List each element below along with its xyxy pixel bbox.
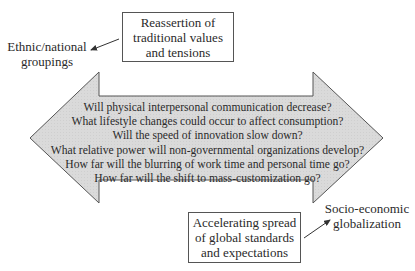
right-label-socio-economic-globalization: Socio-economic globalization	[322, 201, 412, 231]
bottom-box-line: and expectations	[189, 245, 300, 260]
bottom-box-accelerating-spread: Accelerating spread of global standards …	[188, 212, 301, 263]
question-item: How far will the blurring of work time a…	[40, 158, 375, 172]
question-item: Will physical interpersonal communicatio…	[40, 101, 375, 115]
left-label-ethnic-groupings: Ethnic/national groupings	[4, 39, 90, 69]
top-box-reassertion: Reassertion of traditional values and te…	[122, 12, 234, 62]
question-item: Will the speed of innovation slow down?	[40, 129, 375, 143]
question-item: How far will the shift to mass-customiza…	[40, 172, 375, 186]
question-list: Will physical interpersonal communicatio…	[40, 101, 375, 186]
right-label-line: Socio-economic	[322, 201, 412, 216]
right-label-line: globalization	[322, 216, 412, 231]
left-label-line: groupings	[4, 54, 90, 69]
top-box-line: Reassertion of	[123, 15, 233, 30]
top-box-line: traditional values	[123, 30, 233, 45]
left-label-line: Ethnic/national	[4, 39, 90, 54]
question-item: What lifestyle changes could occur to af…	[40, 115, 375, 129]
pointer-arrow-left	[91, 39, 119, 50]
bottom-box-line: Accelerating spread	[189, 215, 300, 230]
top-box-line: and tensions	[123, 45, 233, 60]
question-item: What relative power will non-governmenta…	[40, 144, 375, 158]
bottom-box-line: of global standards	[189, 230, 300, 245]
